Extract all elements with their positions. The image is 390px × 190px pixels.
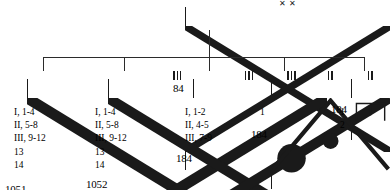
connector-drop-2 [124,57,125,71]
caption-line: II, 4-5 [185,119,212,132]
caption-child-1: I, 1-4 II, 5-8 III, 9-12 13 14 [14,106,46,172]
caption-line: III, 7-9 [185,132,212,145]
connector-drop-4 [284,57,285,71]
echelon-xx-root: ✕✕ [185,0,390,8]
caption-line: II, 5-8 [95,119,127,132]
node-child-1-designation: 1051 [5,184,27,190]
engineer-bridge-icon [351,98,390,122]
connector-drop-1 [43,57,44,71]
connector-root-stem [209,30,210,57]
caption-child-2: I, 1-4 II, 5-8 III, 9-12 13 14 [95,106,127,172]
echelon-x-glyph: ✕ [289,0,296,8]
caption-line: I, 1-4 [95,106,127,119]
caption-line: III, 9-12 [95,132,127,145]
caption-line: 13 [14,146,46,159]
caption-line: I, 1-2 [185,106,212,119]
echelon-ii-child-5 [351,71,390,80]
caption-line: III, 9-12 [14,132,46,145]
caption-child-5: 1 2 [340,106,345,132]
echelon-tick [371,71,372,80]
echelon-tick [328,71,329,80]
caption-line: 1 [340,106,345,119]
connector-drop-5 [364,57,365,71]
echelon-tick [368,71,369,80]
caption-line: I, 1-4 [14,106,46,119]
echelon-tick [331,71,332,80]
org-chart: 84 ✕✕ 1051 [0,0,390,190]
caption-line: II, 5-8 [14,119,46,132]
engineer-bridge-symbol[interactable] [351,79,390,140]
node-child-2-designation: 1052 [86,179,108,190]
connector-bus [43,57,365,58]
echelon-x-glyph: ✕ [279,0,286,8]
caption-child-4: 1 [260,106,265,119]
caption-line: 14 [95,159,127,172]
caption-line: 2 [340,119,345,132]
node-child-4-designation: 184 [251,129,268,140]
node-child-5-symbol-wrap[interactable] [351,80,390,140]
caption-line: 13 [95,146,127,159]
caption-line: 14 [14,159,46,172]
caption-child-3: I, 1-2 II, 4-5 III, 7-9 [185,106,212,146]
caption-line: 1 [260,106,265,119]
node-child-3-designation: 184 [176,153,193,164]
connector-drop-3 [209,57,210,71]
